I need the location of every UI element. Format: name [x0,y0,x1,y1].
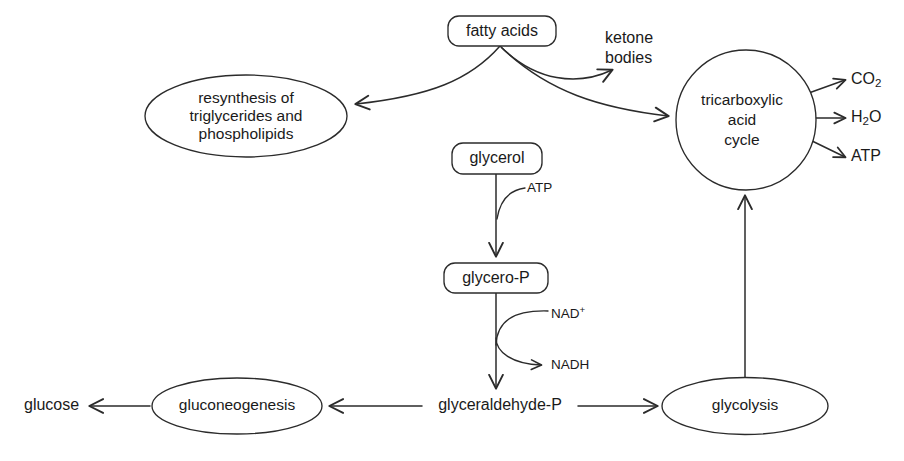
node-glycero-p-label: glycero-P [462,269,530,286]
node-gluconeogenesis-label: gluconeogenesis [179,396,296,413]
node-fatty-acids-label: fatty acids [466,22,538,39]
node-tca-cycle-label-line2: acid [728,111,756,128]
node-ketone-bodies-label-line2: bodies [605,49,652,66]
arrow-tca-to-atp [808,139,845,157]
product-h2o-suffix: O [869,108,881,125]
product-co2-formula: CO [851,70,875,87]
node-tca-cycle-label-line3: cycle [724,131,759,148]
node-resynthesis-label-line1: resynthesis of [198,89,294,106]
cofactor-nad-base: NAD [551,306,580,321]
cofactor-atp-label: ATP [527,180,552,195]
node-glycerol-label: glycerol [469,149,524,166]
node-resynthesis-label-line2: triglycerides and [190,107,303,124]
product-h2o-prefix: H [851,108,863,125]
node-glucose-label: glucose [24,396,79,413]
arrow-tca-to-co2 [806,80,845,94]
product-atp-label: ATP [851,147,881,164]
cofactor-nad-plus-label: NAD+ [551,304,586,321]
node-glycolysis-label: glycolysis [712,396,779,413]
product-co2-subscript: 2 [875,77,881,89]
cofactor-nadh-label: NADH [551,357,589,372]
pathway-canvas: fatty acids resynthesis of triglycerides… [0,0,904,461]
cofactor-curve-nadh [496,338,541,365]
cofactor-curve-nad-plus [496,311,548,345]
arrow-fatty-acids-to-resynthesis [356,46,500,104]
node-ketone-bodies-label-line1: ketone [605,29,653,46]
node-tca-cycle-label-line1: tricarboxylic [701,91,783,108]
cofactor-curve-atp [497,188,525,219]
arrow-fatty-acids-to-ketone-bodies [500,46,612,79]
product-h2o-label: H2O [851,108,881,127]
node-resynthesis-label-line3: phospholipids [199,125,294,142]
pathway-diagram: fatty acids resynthesis of triglycerides… [0,0,904,461]
product-co2-label: CO2 [851,70,881,89]
cofactor-nad-superscript: + [580,304,586,315]
node-glyceraldehyde-p-label: glyceraldehyde-P [438,396,562,413]
